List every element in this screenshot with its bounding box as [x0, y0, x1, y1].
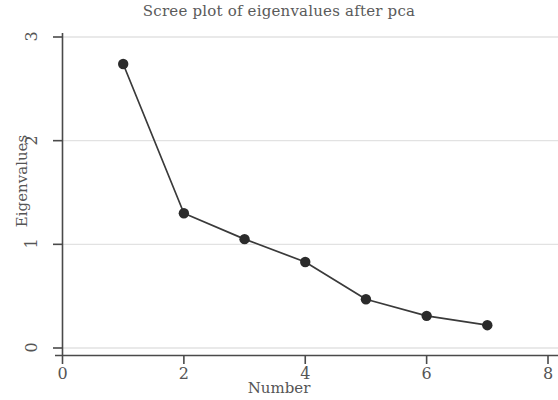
data-point-3	[239, 234, 249, 244]
x-axis-title: Number	[0, 379, 558, 397]
data-point-1	[118, 59, 128, 69]
y-tick-label-3: 3	[22, 22, 41, 52]
data-point-7	[482, 320, 492, 330]
x-tick-marks-group	[63, 356, 549, 365]
data-line-group	[123, 64, 487, 325]
y-axis-title: Eigenvalues	[13, 126, 31, 236]
data-line	[123, 64, 487, 325]
data-markers-group	[118, 59, 493, 331]
y-tick-label-0: 0	[22, 333, 41, 363]
scree-plot-figure: Scree plot of eigenvalues after pca 0123…	[0, 0, 558, 400]
gridlines-group	[63, 37, 558, 348]
data-point-4	[300, 257, 310, 267]
plot-area: 0123 02468	[0, 0, 558, 400]
data-point-2	[179, 208, 189, 218]
data-point-6	[421, 311, 431, 321]
plot-svg	[0, 0, 558, 400]
y-tick-marks-group	[53, 37, 63, 348]
data-point-5	[361, 294, 371, 304]
